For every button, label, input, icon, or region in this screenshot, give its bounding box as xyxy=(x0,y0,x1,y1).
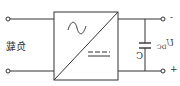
voltage-subscript: DC xyxy=(157,43,166,50)
converter-diagonal xyxy=(54,12,118,80)
capacitor-label: C xyxy=(136,51,143,61)
left-bottom-terminal xyxy=(6,69,10,73)
terminal-minus-sign: - xyxy=(170,12,173,22)
converter-circuit-diagram xyxy=(0,0,180,86)
ac-sine-icon xyxy=(68,22,86,34)
terminal-plus-sign: + xyxy=(170,64,178,74)
right-bottom-terminal xyxy=(161,69,165,73)
voltage-symbol: U xyxy=(166,38,174,48)
load-label: 负载 xyxy=(6,38,26,53)
voltage-label: UDC xyxy=(157,38,174,50)
right-top-terminal xyxy=(161,17,165,21)
left-top-terminal xyxy=(6,17,10,21)
